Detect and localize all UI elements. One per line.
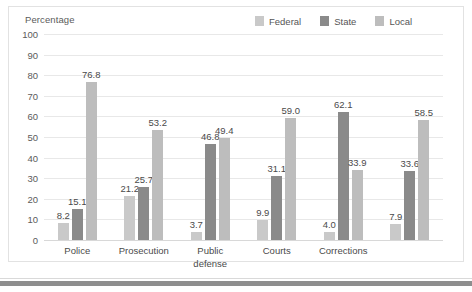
bar-federal[interactable] [257,220,268,240]
y-axis-tick-label: 0 [33,235,38,246]
bar-group: 8.215.176.8 [58,34,97,240]
bar-local[interactable] [152,130,163,240]
bar-group: 21.225.753.2 [124,34,163,240]
x-axis-category-label: Corrections [319,245,368,258]
y-axis-tick-label: 70 [27,90,38,101]
bar-state[interactable] [271,176,282,240]
bar-value-label: 3.7 [190,219,203,230]
gridline [44,137,443,138]
bar-value-label: 15.1 [68,196,87,207]
gridline [44,219,443,220]
y-axis-tick-label: 90 [27,49,38,60]
legend-item-federal[interactable]: Federal [255,16,301,27]
bar-value-label: 31.1 [268,163,287,174]
legend-item-state[interactable]: State [320,16,356,27]
y-axis-tick-label: 60 [27,111,38,122]
bottom-rule [0,281,472,286]
gridline [44,158,443,159]
legend-label: State [334,16,356,27]
bar-local[interactable] [352,170,363,240]
legend-item-local[interactable]: Local [375,16,412,27]
x-axis-labels: PoliceProsecutionPublic defenseCourtsCor… [44,245,443,285]
bar-value-label: 76.8 [82,69,101,80]
bar-value-label: 9.9 [256,207,269,218]
bar-federal[interactable] [324,232,335,240]
bar-federal[interactable] [58,223,69,240]
x-axis-category-label: Prosecution [119,245,169,258]
bar-value-label: 59.0 [282,105,301,116]
y-axis-title: Percentage [25,14,75,25]
bar-value-label: 49.4 [215,125,234,136]
bar-local[interactable] [418,120,429,241]
chart-legend: FederalStateLocal [255,15,412,27]
gridline [44,75,443,76]
gridline [44,240,443,241]
legend-swatch-icon [375,16,384,26]
bar-value-label: 33.6 [401,158,420,169]
bar-group: 9.931.159.0 [257,34,296,240]
bar-value-label: 7.9 [389,211,402,222]
bar-local[interactable] [285,118,296,240]
bottom-rule-thin [0,278,472,279]
y-axis-tick-label: 100 [22,29,38,40]
bar-value-label: 33.9 [348,157,367,168]
gridline [44,116,443,117]
x-axis-category-label: Police [64,245,90,258]
gridline [44,96,443,97]
bar-federal[interactable] [390,224,401,240]
y-axis-tick-label: 20 [27,193,38,204]
bar-local[interactable] [219,138,230,240]
plot-area: 8.215.176.821.225.753.23.746.849.49.931.… [44,34,443,240]
y-axis-tick-label: 10 [27,214,38,225]
y-axis-tick-label: 40 [27,152,38,163]
bar-state[interactable] [205,144,216,240]
bar-local[interactable] [86,82,97,240]
bar-state[interactable] [338,112,349,240]
bar-state[interactable] [404,171,415,240]
bar-value-label: 58.5 [415,107,434,118]
y-axis-tick-label: 80 [27,70,38,81]
bar-federal[interactable] [124,196,135,240]
legend-swatch-icon [255,16,264,26]
x-axis-category-label: Courts [263,245,291,258]
bar-group: 7.933.658.5 [390,34,429,240]
bar-state[interactable] [72,209,83,240]
gridline [44,34,443,35]
y-axis-tick-label: 50 [27,132,38,143]
bar-value-label: 8.2 [57,210,70,221]
bar-value-label: 53.2 [149,117,168,128]
bar-federal[interactable] [191,232,202,240]
x-axis-category-label: Public defense [193,245,227,270]
y-axis-ticks: 1009080706050403020100 [0,34,44,240]
legend-label: Federal [269,16,301,27]
gridline [44,199,443,200]
legend-swatch-icon [320,16,329,26]
gridline [44,55,443,56]
legend-label: Local [389,16,412,27]
bar-value-label: 25.7 [135,174,154,185]
y-axis-tick-label: 30 [27,173,38,184]
bar-chart-figure: Percentage FederalStateLocal 10090807060… [0,0,472,292]
bar-value-label: 62.1 [334,99,353,110]
bar-state[interactable] [138,187,149,240]
bar-group: 3.746.849.4 [191,34,230,240]
gridline [44,178,443,179]
bar-value-label: 4.0 [323,219,336,230]
bar-group: 4.062.133.9 [324,34,363,240]
